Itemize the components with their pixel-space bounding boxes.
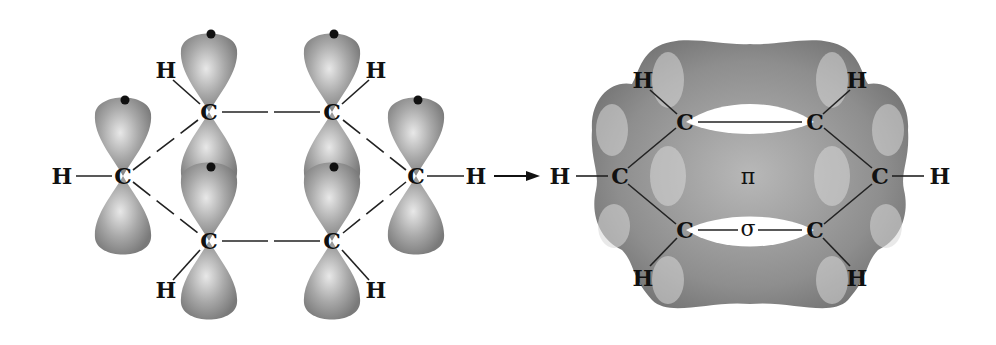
atom-label: C	[676, 109, 694, 135]
hydrogen-label: H	[156, 277, 177, 303]
hydrogen-label: H	[366, 277, 387, 303]
electron-dot	[330, 30, 339, 39]
benzene-orbital-diagram: C C C C C C H H H H H H	[0, 0, 996, 345]
atom-label: C	[806, 109, 824, 135]
hydrogen-label: H	[930, 163, 951, 189]
hydrogen-label: H	[633, 67, 654, 93]
left-panel-p-orbitals	[95, 30, 444, 320]
hydrogen-label: H	[847, 265, 868, 291]
hydrogen-label: H	[52, 163, 73, 189]
atom-label: C	[323, 99, 341, 125]
electron-dot	[207, 163, 216, 172]
hydrogen-label: H	[466, 163, 487, 189]
electron-dot	[121, 96, 130, 105]
hydrogen-label: H	[847, 67, 868, 93]
sigma-bond-label: σ	[740, 216, 755, 241]
left-panel-labels: C C C C C C H H H H H H	[52, 57, 487, 303]
atom-label: C	[323, 228, 341, 254]
atom-label: C	[676, 217, 694, 243]
atom-label: C	[200, 228, 218, 254]
atom-label: C	[200, 99, 218, 125]
hydrogen-label: H	[633, 265, 654, 291]
atom-label: C	[611, 163, 629, 189]
hydrogen-label: H	[156, 57, 177, 83]
pi-bond-label: π	[741, 164, 755, 189]
electron-dot	[207, 30, 216, 39]
transition-arrow-icon	[494, 171, 540, 181]
electron-dot	[414, 96, 423, 105]
hydrogen-label: H	[366, 57, 387, 83]
atom-label: C	[114, 163, 132, 189]
atom-label: C	[871, 163, 889, 189]
hydrogen-label: H	[550, 163, 571, 189]
atom-label: C	[806, 217, 824, 243]
electron-dot	[330, 163, 339, 172]
diagram-canvas: C C C C C C H H H H H H	[0, 0, 996, 345]
atom-label: C	[407, 163, 425, 189]
